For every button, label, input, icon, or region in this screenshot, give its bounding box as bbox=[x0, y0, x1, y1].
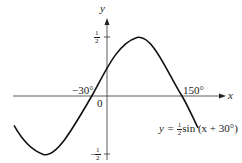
x-tick-label-neg30: −30° bbox=[72, 85, 94, 96]
x-axis-label: x bbox=[228, 90, 233, 101]
origin-label: 0 bbox=[97, 98, 103, 109]
y-axis-arrow-icon bbox=[105, 18, 110, 25]
chart-canvas bbox=[0, 0, 242, 163]
equation-annotation: y = 12sin (x + 30°) bbox=[159, 122, 238, 137]
x-tick-label-150: 150° bbox=[183, 85, 204, 96]
y-axis-label: y bbox=[100, 3, 105, 14]
y-tick-label-half: 12 bbox=[94, 30, 100, 45]
y-tick-label-neg-half: −12 bbox=[90, 147, 101, 162]
x-axis-arrow-icon bbox=[219, 94, 226, 99]
